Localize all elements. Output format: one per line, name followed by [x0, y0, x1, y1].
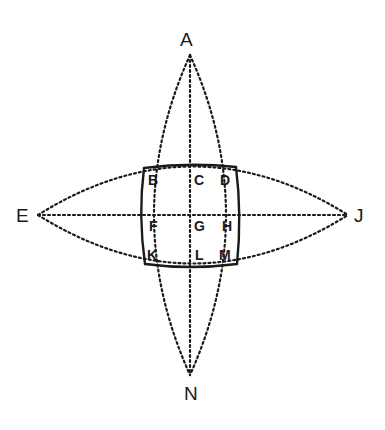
horizontal-lens-bottom-arc	[38, 215, 348, 264]
point-label-k: K	[147, 248, 157, 262]
lens-diagram	[0, 0, 385, 430]
point-label-l: L	[195, 248, 204, 262]
point-label-h: H	[222, 219, 232, 233]
point-label-c: C	[194, 173, 204, 187]
point-label-a: A	[180, 30, 193, 49]
point-label-e: E	[16, 206, 29, 225]
point-label-d: D	[220, 173, 230, 187]
point-label-m: M	[219, 248, 231, 262]
horizontal-lens-top-arc	[38, 167, 348, 216]
point-label-g: G	[194, 219, 205, 233]
point-label-f: F	[149, 219, 158, 233]
point-label-n: N	[184, 384, 198, 403]
point-label-b: B	[148, 173, 158, 187]
point-label-j: J	[354, 206, 364, 225]
